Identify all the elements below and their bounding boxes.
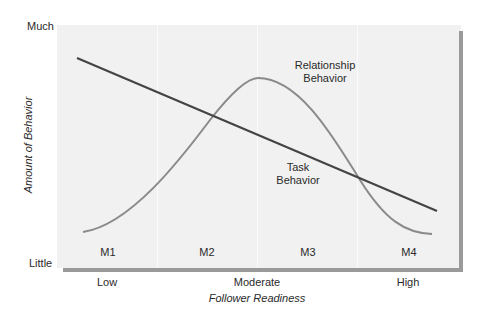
task-behavior-annotation: Task Behavior bbox=[276, 161, 319, 187]
relationship-behavior-annotation: Relationship Behavior bbox=[295, 59, 356, 85]
region-label-m4: M4 bbox=[401, 246, 416, 258]
relationship-annotation-line1: Relationship bbox=[295, 59, 356, 72]
x-axis-label: Follower Readiness bbox=[209, 292, 306, 304]
task-behavior-line bbox=[77, 58, 437, 211]
region-label-m3: M3 bbox=[300, 246, 315, 258]
task-annotation-line1: Task bbox=[276, 161, 319, 174]
x-tick-high: High bbox=[397, 276, 420, 288]
y-axis-label: Amount of Behavior bbox=[22, 97, 34, 194]
relationship-behavior-curve bbox=[83, 78, 432, 234]
region-label-m1: M1 bbox=[100, 246, 115, 258]
region-label-m2: M2 bbox=[199, 246, 214, 258]
relationship-annotation-line2: Behavior bbox=[295, 72, 356, 85]
chart-curves bbox=[0, 0, 480, 317]
x-tick-low: Low bbox=[97, 276, 117, 288]
x-tick-moderate: Moderate bbox=[234, 276, 280, 288]
task-annotation-line2: Behavior bbox=[276, 174, 319, 187]
y-tick-much: Much bbox=[27, 20, 54, 32]
y-tick-little: Little bbox=[29, 257, 52, 269]
